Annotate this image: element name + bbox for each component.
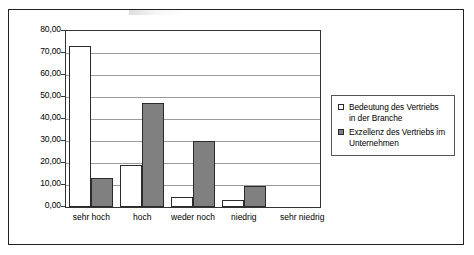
- bar-1-3: [244, 186, 266, 207]
- y-axis-tick-label: 40,00: [13, 113, 61, 122]
- bar-0-1: [120, 165, 142, 207]
- legend-label-series-1: Bedeutung des Vertriebs in der Branche: [349, 102, 439, 123]
- chart-legend: Bedeutung des Vertriebs in der Branche E…: [331, 95, 455, 156]
- x-axis-label-0: sehr hoch: [66, 212, 117, 223]
- bar-0-3: [222, 200, 244, 207]
- y-axis-tick-label: 50,00: [13, 91, 61, 100]
- bar-group: [117, 31, 168, 207]
- bar-group: [168, 31, 219, 207]
- legend-label-series-2-line1: Exzellenz des Vertriebs im: [349, 127, 445, 137]
- bar-chart: 0,0010,0020,0030,0040,0050,0060,0070,008…: [9, 10, 465, 246]
- x-axis-label-4: sehr niedrig: [269, 212, 335, 223]
- legend-swatch-series-1-icon: [338, 104, 344, 110]
- y-axis-tick-label: 10,00: [13, 179, 61, 188]
- bar-1-1: [142, 103, 164, 208]
- bar-0-0: [69, 46, 91, 207]
- x-axis: sehr hochhochweder nochniedrigsehr niedr…: [66, 212, 320, 226]
- y-axis-tick-label: 0,00: [13, 201, 61, 210]
- y-axis-tick-label: 20,00: [13, 157, 61, 166]
- bar-1-2: [193, 141, 215, 207]
- bar-group: [66, 31, 117, 207]
- x-axis-label-1: hoch: [117, 212, 168, 223]
- bar-group: [269, 31, 320, 207]
- legend-label-series-2: Exzellenz des Vertriebs im Unternehmen: [349, 127, 445, 148]
- legend-swatch-series-2-icon: [338, 129, 344, 135]
- y-axis-tick-label: 30,00: [13, 135, 61, 144]
- bar-1-0: [91, 178, 113, 207]
- y-axis-tick-label: 70,00: [13, 47, 61, 56]
- legend-label-series-1-line1: Bedeutung des Vertriebs: [349, 102, 439, 112]
- y-axis: 0,0010,0020,0030,0040,0050,0060,0070,008…: [9, 30, 61, 208]
- legend-label-series-2-line2: Unternehmen: [349, 138, 399, 148]
- legend-label-series-1-line2: in der Branche: [349, 113, 402, 123]
- y-axis-tick-label: 80,00: [13, 25, 61, 34]
- x-axis-label-3: niedrig: [218, 212, 269, 223]
- x-axis-label-2: weder noch: [168, 212, 219, 223]
- y-axis-tick-label: 60,00: [13, 69, 61, 78]
- legend-item-exzellenz: Exzellenz des Vertriebs im Unternehmen: [337, 127, 449, 148]
- bar-group: [218, 31, 269, 207]
- bar-0-2: [171, 197, 193, 207]
- bars-layer: [66, 31, 320, 207]
- chart-figure-frame: 0,0010,0020,0030,0040,0050,0060,0070,008…: [8, 9, 464, 245]
- legend-item-bedeutung: Bedeutung des Vertriebs in der Branche: [337, 102, 449, 123]
